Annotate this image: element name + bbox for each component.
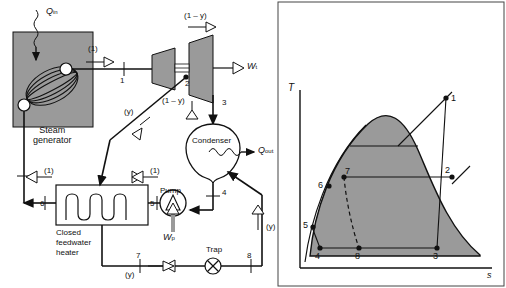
ts-point-8 [356,245,361,250]
ts-point-1 [443,95,448,100]
flow-arrow-turbine-top [206,22,216,32]
flow-arrow-extraction-y [132,128,142,140]
state-label-5: 5 [150,199,154,208]
ts-state-label-8: 8 [355,251,360,261]
state-label-3: 3 [222,98,226,107]
ts-state-label-4: 4 [315,251,320,261]
ts-state-label-5: 5 [303,220,308,230]
work-pump-label: Wp [163,232,175,242]
line-8-to-condenser [228,172,262,195]
pump-label: Pump [160,186,181,195]
flow-arrow-gen-exit [104,57,114,67]
ts-state-label-1: 1 [451,93,456,103]
ts-point-4 [317,245,322,250]
generator-inlet-node [18,99,30,111]
heat-in-label: Qin [46,6,58,16]
work-turbine-label: Wt [247,61,257,71]
ts-axis-s-label: s [487,270,492,280]
ts-point-3 [434,245,439,250]
ts-line-2-tick [452,166,470,184]
figure-canvas: Qin Steam generator (1) (1 – y) (y) (1 –… [0,0,506,288]
ts-state-label-7: 7 [345,166,350,176]
feedwater-heater-label: Closed feedwater heater [56,228,91,258]
flow-tag-trap-line: (y) [125,270,134,279]
flow-tag-gen-exit: (1) [88,44,98,53]
state-label-1: 1 [120,76,124,85]
ts-point-2 [449,174,454,179]
ts-point-5 [310,224,315,229]
ts-vapor-dome [310,116,480,256]
line-extraction-y [110,78,185,140]
flow-tag-fwh-in: (1) [44,166,54,175]
flow-tag-fwh-feed: (1) [150,166,160,175]
condenser-label: Condenser [192,136,231,145]
flow-tag-stage2: (1 – y) [162,96,185,105]
ts-axis-T-label: T [288,82,294,93]
turbine-stage-1 [152,48,175,90]
flow-tag-return-y: (y) [266,222,275,231]
ts-state-label-6: 6 [318,180,323,190]
work-turbine-arrow [233,62,244,74]
turbine-stage-2 [189,35,213,103]
flow-tag-turbine-top: (1 – y) [184,11,207,20]
line-extraction-into-fwh [100,140,110,185]
generator-outlet-node [60,63,72,75]
state-label-7: 7 [136,251,140,260]
flow-arrow-fwh-in [26,171,37,183]
steam-generator-label: Steam generator [33,125,72,145]
ts-state-label-2: 2 [445,165,450,175]
state-label-6: 6 [40,199,44,208]
state-label-2: 2 [185,79,189,88]
state-label-4: 4 [222,188,226,197]
ts-state-label-3: 3 [433,251,438,261]
flow-arrow-extraction-y-tail [140,117,150,125]
ts-point-6 [326,183,331,188]
flow-tag-extraction-y: (y) [124,107,133,116]
flow-arrow-stage2 [186,110,198,119]
trap-label: Trap [206,245,222,254]
steam-generator-body [13,32,93,127]
state-label-8: 8 [247,251,251,260]
heat-out-label: Qout [258,145,273,155]
